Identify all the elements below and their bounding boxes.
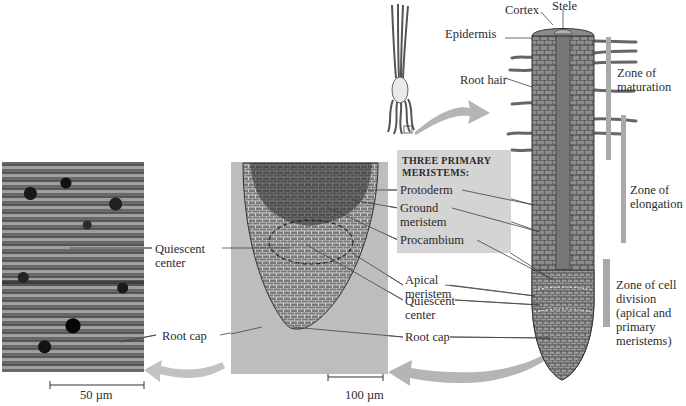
meristem-leaders bbox=[0, 0, 686, 406]
scale-bar-100um: 100 µm bbox=[345, 388, 384, 402]
label-quiescent-center-middle: Quiescent center bbox=[405, 294, 465, 322]
label-quiescent-center-left: Quiescent center bbox=[155, 242, 215, 270]
scale-bar-50um: 50 µm bbox=[80, 388, 113, 402]
label-root-cap-left: Root cap bbox=[162, 329, 207, 343]
label-root-cap-middle: Root cap bbox=[405, 330, 450, 344]
